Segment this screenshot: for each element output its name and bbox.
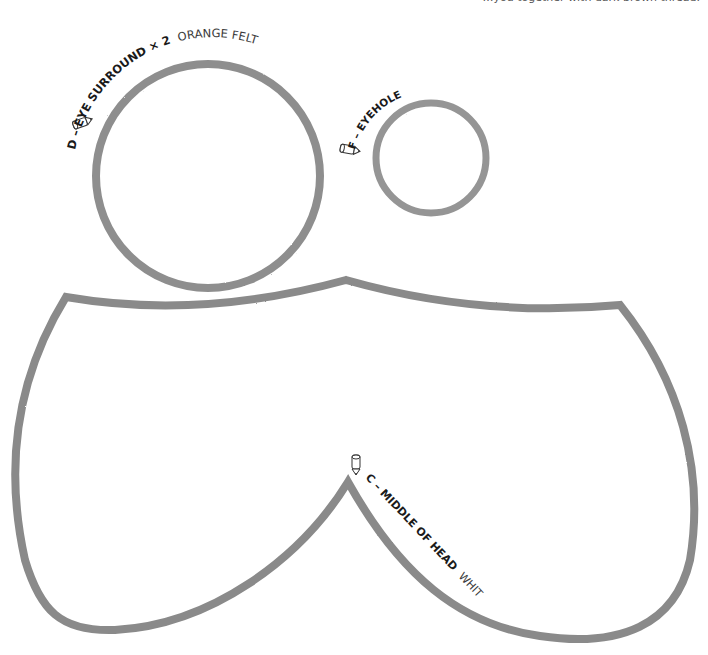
piece-d-eye-surround: D – EYE SURROUND × 2 ORANGE FELT <box>64 26 320 288</box>
pencil-icon <box>352 455 360 475</box>
pattern-page: …you together with dark brown thread. D <box>0 0 708 655</box>
piece-c-middle-of-head: C – MIDDLE OF HEAD WHITE FELT <box>0 0 694 639</box>
eyehole-outline <box>376 103 486 213</box>
pattern-drawing: D – EYE SURROUND × 2 ORANGE FELT F – EYE… <box>0 0 708 655</box>
piece-d-label: D – EYE SURROUND × 2 ORANGE FELT <box>64 26 260 151</box>
eye-surround-outline <box>96 64 320 288</box>
piece-f-eyehole: F – EYEHOLE <box>340 88 486 213</box>
